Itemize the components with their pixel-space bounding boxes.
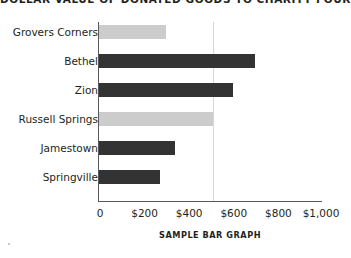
x-axis-line (98, 201, 322, 202)
chart-title: DOLLAR VALUE OF DONATED GOODS TO CHARITY… (0, 0, 342, 5)
x-tick-label-400: $400 (176, 207, 203, 219)
y-axis-label-grovers-corners: Grovers Corners (13, 27, 98, 38)
x-tick-label-1000: $1,000 (303, 207, 340, 219)
x-axis-title: SAMPLE BAR GRAPH (98, 230, 322, 240)
bar-springville (99, 170, 160, 184)
y-axis-label-bethel: Bethel (64, 56, 98, 67)
bar-bethel (99, 54, 255, 68)
y-axis-label-russell-springs: Russell Springs (19, 114, 98, 125)
x-tick-label-0: 0 (97, 207, 104, 219)
x-tick-label-200: $200 (131, 207, 158, 219)
y-axis-label-zion: Zion (75, 85, 98, 96)
bar-jamestown (99, 141, 175, 155)
bar-grovers-corners (99, 25, 166, 39)
bar-russell-springs (99, 112, 213, 126)
bar-zion (99, 83, 233, 97)
y-axis-label-jamestown: Jamestown (41, 143, 98, 154)
x-tick-label-600: $600 (220, 207, 247, 219)
scan-artifact-speck (8, 243, 10, 245)
chart-gridline (213, 22, 214, 202)
y-axis-label-springville: Springville (43, 172, 98, 183)
x-tick-label-800: $800 (265, 207, 292, 219)
